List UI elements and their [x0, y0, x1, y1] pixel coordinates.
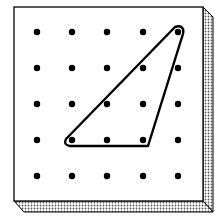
- peg: [34, 173, 40, 179]
- peg: [175, 137, 181, 143]
- peg: [34, 101, 40, 107]
- peg: [69, 65, 75, 71]
- peg: [140, 137, 146, 143]
- peg: [140, 173, 146, 179]
- peg: [104, 137, 110, 143]
- peg: [104, 101, 110, 107]
- peg: [69, 101, 75, 107]
- peg: [34, 29, 40, 35]
- peg: [104, 173, 110, 179]
- peg: [104, 65, 110, 71]
- peg: [104, 29, 110, 35]
- peg: [175, 29, 181, 35]
- peg: [175, 173, 181, 179]
- peg: [175, 101, 181, 107]
- peg: [34, 137, 40, 143]
- peg: [140, 65, 146, 71]
- peg: [69, 29, 75, 35]
- peg: [69, 137, 75, 143]
- peg: [34, 65, 40, 71]
- peg: [69, 173, 75, 179]
- board-right-side: [203, 7, 213, 212]
- peg: [140, 29, 146, 35]
- peg: [175, 65, 181, 71]
- geoboard-diagram: [0, 0, 220, 222]
- peg: [140, 101, 146, 107]
- board-bottom-side: [14, 201, 213, 212]
